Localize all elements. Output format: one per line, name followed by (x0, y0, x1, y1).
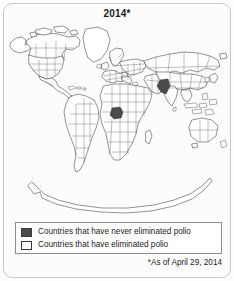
south-america (64, 94, 99, 172)
figure-title: 2014* (0, 8, 234, 19)
australia (189, 118, 227, 148)
legend-item-never-eliminated: Countries that have never eliminated pol… (21, 226, 216, 239)
legend-label-eliminated: Countries that have eliminated polio (38, 241, 168, 249)
north-america (10, 26, 116, 98)
legend-swatch-never-eliminated-icon (21, 228, 32, 237)
world-map (6, 24, 228, 218)
polio-map-figure: 2014* (0, 0, 234, 281)
map-legend: Countries that have never eliminated pol… (15, 222, 222, 254)
figure-footnote: *As of April 29, 2014 (0, 258, 222, 267)
asia (144, 52, 227, 115)
legend-label-never-eliminated: Countries that have never eliminated pol… (38, 228, 191, 236)
antarctica (28, 178, 212, 213)
africa (100, 84, 152, 160)
legend-item-eliminated: Countries that have eliminated polio (21, 239, 216, 252)
legend-swatch-eliminated-icon (21, 241, 32, 250)
